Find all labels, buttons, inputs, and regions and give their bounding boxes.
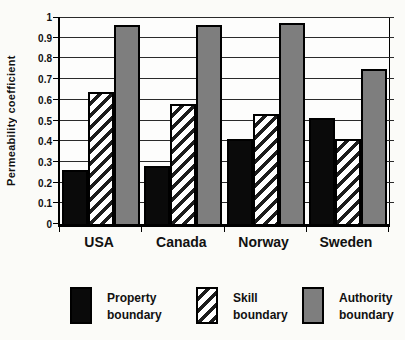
legend-label-property-boundary: Property boundary bbox=[107, 287, 187, 325]
y-tick-label: 0.2 bbox=[38, 177, 52, 188]
bar-norway-property-boundary bbox=[227, 139, 253, 224]
y-tick-mark bbox=[53, 57, 58, 58]
y-tick-label: 0.7 bbox=[38, 74, 52, 85]
x-tick-mark bbox=[141, 227, 142, 232]
legend-label-skill-boundary: Skill boundary bbox=[233, 287, 313, 325]
x-tick-mark bbox=[224, 227, 225, 232]
bar-group-norway bbox=[225, 17, 307, 224]
y-tick-mark bbox=[53, 78, 58, 79]
legend-swatch-skill-boundary bbox=[196, 287, 218, 324]
bar-canada-skill-boundary bbox=[170, 104, 196, 224]
y-axis-tick-labels: 10.90.80.70.60.50.40.30.20.10 bbox=[0, 17, 52, 224]
x-tick-mark bbox=[306, 227, 307, 232]
x-axis-category-labels: USACanadaNorwaySweden bbox=[58, 234, 387, 250]
bar-canada-property-boundary bbox=[144, 166, 170, 224]
y-tick-mark bbox=[53, 161, 58, 162]
y-tick-label: 0.1 bbox=[38, 198, 52, 209]
y-tick-mark bbox=[53, 17, 58, 18]
y-tick-label: 0.3 bbox=[38, 156, 52, 167]
bar-group-canada bbox=[142, 17, 224, 224]
bar-norway-authority-boundary bbox=[279, 23, 305, 224]
category-label-canada: Canada bbox=[140, 234, 222, 250]
y-tick-label: 1 bbox=[46, 12, 52, 23]
y-tick-mark bbox=[53, 120, 58, 121]
bar-sweden-authority-boundary bbox=[361, 69, 387, 224]
bar-usa-skill-boundary bbox=[88, 92, 114, 224]
y-tick-label: 0.8 bbox=[38, 53, 52, 64]
y-tick-label: 0.5 bbox=[38, 115, 52, 126]
bar-group-usa bbox=[60, 17, 142, 224]
bar-sweden-property-boundary bbox=[309, 118, 335, 224]
bar-canada-authority-boundary bbox=[196, 25, 222, 224]
bar-group-sweden bbox=[307, 17, 389, 224]
legend-item-skill-boundary: Skill boundary bbox=[196, 287, 313, 325]
y-tick-mark bbox=[53, 99, 58, 100]
y-tick-mark bbox=[53, 202, 58, 203]
bar-norway-skill-boundary bbox=[253, 114, 279, 224]
plot-area bbox=[58, 17, 390, 227]
bar-usa-property-boundary bbox=[62, 170, 88, 224]
bar-sweden-skill-boundary bbox=[335, 139, 361, 224]
y-tick-label: 0 bbox=[46, 219, 52, 230]
legend-item-authority-boundary: Authority boundary bbox=[302, 287, 405, 325]
permeability-bar-chart: Permeability coefficient 10.90.80.70.60.… bbox=[0, 0, 405, 340]
bar-usa-authority-boundary bbox=[114, 25, 140, 224]
legend-swatch-property-boundary bbox=[70, 287, 92, 324]
x-tick-mark bbox=[388, 227, 389, 232]
legend-swatch-authority-boundary bbox=[302, 287, 324, 324]
y-tick-mark bbox=[53, 223, 58, 224]
category-label-norway: Norway bbox=[223, 234, 305, 250]
legend-item-property-boundary: Property boundary bbox=[70, 287, 187, 325]
chart-legend: Property boundarySkill boundaryAuthority… bbox=[0, 287, 405, 332]
y-tick-mark bbox=[53, 37, 58, 38]
y-tick-label: 0.6 bbox=[38, 94, 52, 105]
category-label-usa: USA bbox=[58, 234, 140, 250]
y-tick-mark bbox=[53, 140, 58, 141]
category-label-sweden: Sweden bbox=[305, 234, 387, 250]
y-tick-label: 0.9 bbox=[38, 32, 52, 43]
y-tick-mark bbox=[53, 182, 58, 183]
x-tick-mark bbox=[59, 227, 60, 232]
y-tick-label: 0.4 bbox=[38, 136, 52, 147]
legend-label-authority-boundary: Authority boundary bbox=[339, 287, 405, 325]
